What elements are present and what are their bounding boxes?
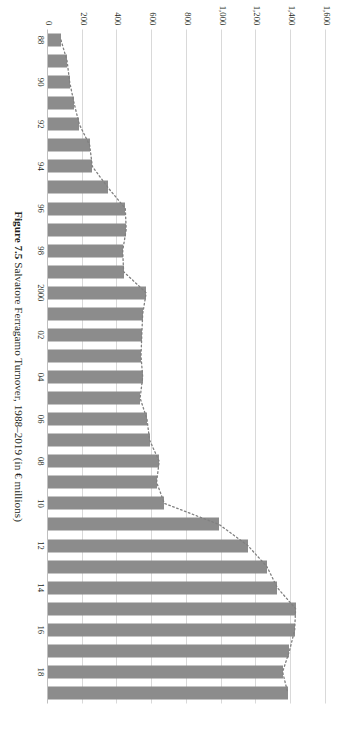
category-tick-label: 96 [36, 204, 46, 213]
category-tick-label: 98 [36, 246, 46, 255]
category-tick-label: 14 [36, 583, 46, 592]
category-tick-label: 2000 [36, 284, 46, 301]
figure-number: Figure 7.5 [13, 211, 25, 259]
bar-97 [48, 223, 126, 236]
bar-98 [48, 244, 123, 257]
category-tick-label: 02 [36, 330, 46, 339]
bar-17 [48, 644, 290, 657]
bar-03 [48, 349, 141, 362]
bar-01 [48, 307, 143, 320]
category-tick-label: 94 [36, 162, 46, 171]
category-tick-label: 92 [36, 119, 46, 128]
category-tick-label: 06 [36, 414, 46, 423]
category-tick-label: 18 [36, 667, 46, 676]
bar-12 [48, 539, 248, 552]
bar-14 [48, 581, 277, 594]
plot-area [48, 29, 326, 703]
bar-2000 [48, 286, 146, 299]
figure-container: 1,6001,4001,2001,0008006004002000 889092… [0, 0, 352, 733]
category-axis: 8890929496982000020406081012141618 [30, 29, 46, 703]
value-tick-label: 400 [113, 12, 122, 25]
category-tick-label: 90 [36, 77, 46, 86]
category-tick-label: 12 [36, 541, 46, 550]
value-tick-label: 1,400 [287, 5, 296, 25]
bar-06 [48, 412, 147, 425]
value-tick-label: 600 [148, 12, 157, 25]
chart-canvas: 1,6001,4001,2001,0008006004002000 889092… [0, 0, 352, 733]
bar-88 [48, 33, 61, 46]
bar-99 [48, 265, 124, 278]
bar-93 [48, 138, 90, 151]
bar-94 [48, 159, 92, 172]
bar-11 [48, 517, 219, 530]
category-tick-label: 04 [36, 372, 46, 381]
bar-91 [48, 96, 74, 109]
bar-07 [48, 433, 150, 446]
bar-95 [48, 180, 108, 193]
bar-90 [48, 75, 70, 88]
bar-04 [48, 370, 143, 383]
bar-19 [48, 686, 288, 699]
bar-96 [48, 202, 125, 215]
bar-02 [48, 328, 142, 341]
bar-15 [48, 602, 296, 615]
category-tick-label: 88 [36, 35, 46, 44]
bar-92 [48, 117, 79, 130]
bar-18 [48, 665, 283, 678]
rotated-figure-stage: 1,6001,4001,2001,0008006004002000 889092… [0, 0, 352, 733]
bar-13 [48, 560, 267, 573]
bar-10 [48, 496, 164, 509]
gridline [325, 29, 326, 703]
category-tick-label: 16 [36, 625, 46, 634]
category-tick-label: 08 [36, 456, 46, 465]
bar-08 [48, 454, 159, 467]
value-tick-label: 800 [183, 12, 192, 25]
figure-caption-text: Salvatore Ferragamo Turnover, 1988–2019 … [13, 262, 25, 522]
value-tick-label: 200 [78, 12, 87, 25]
bar-09 [48, 475, 157, 488]
value-tick-label: 0 [44, 21, 53, 25]
bar-16 [48, 623, 295, 636]
value-tick-label: 1,600 [322, 5, 331, 25]
value-tick-label: 1,000 [217, 5, 226, 25]
value-axis: 1,6001,4001,2001,0008006004002000 [48, 0, 326, 29]
bar-05 [48, 391, 140, 404]
figure-caption: Figure 7.5 Salvatore Ferragamo Turnover,… [12, 29, 26, 703]
category-tick-label: 10 [36, 499, 46, 508]
bar-89 [48, 54, 67, 67]
trend-polyline [61, 40, 296, 693]
value-tick-label: 1,200 [252, 5, 261, 25]
